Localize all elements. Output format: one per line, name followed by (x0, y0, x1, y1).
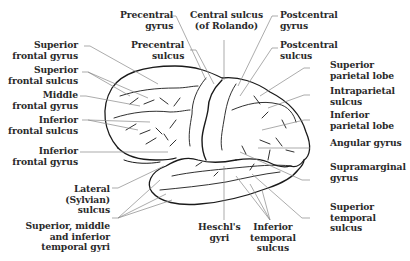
label-temporal-gyri: Superior, middle and inferior temporal g… (26, 221, 110, 253)
label-inferior-parietal-lobe: Inferior parietal lobe (330, 110, 394, 131)
label-inferior-frontal-sulcus: Inferior frontal sulcus (8, 115, 78, 136)
label-precentral-gyrus: Precentral gyrus (120, 10, 173, 31)
label-inferior-frontal-gyrus: Inferior frontal gyrus (12, 146, 78, 167)
label-superior-parietal-lobe: Superior parietal lobe (330, 60, 394, 81)
brain-outline (105, 66, 310, 205)
label-supramarginal-gyrus: Supramarginal gyrus (330, 162, 406, 183)
label-postcentral-sulcus: Postcentral sulcus (280, 40, 338, 61)
label-angular-gyrus: Angular gyrus (330, 138, 402, 149)
label-precentral-sulcus: Precentral sulcus (131, 40, 184, 61)
label-central-sulcus: Central sulcus (of Rolando) (190, 10, 263, 31)
label-inferior-temporal-sulcus: Inferior temporal sulcus (250, 222, 296, 254)
label-intraparietal-sulcus: Intraparietal sulcus (330, 86, 395, 107)
label-heschls-gyri: Heschl's gyri (198, 222, 241, 243)
label-lateral-sulcus: Lateral (Sylvian) sulcus (65, 184, 110, 216)
label-superior-frontal-gyrus: Superior frontal gyrus (12, 40, 78, 61)
label-middle-frontal-gyrus: Middle frontal gyrus (12, 90, 78, 111)
label-superior-frontal-sulcus: Superior frontal sulcus (8, 65, 78, 86)
label-superior-temporal-sulcus: Superior temporal sulcus (330, 202, 376, 234)
label-postcentral-gyrus: Postcentral gyrus (280, 10, 338, 31)
